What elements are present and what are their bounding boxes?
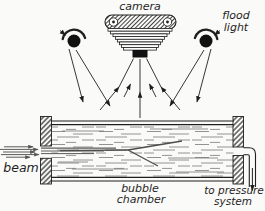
flood-light-right bbox=[195, 30, 220, 48]
reflected-ray-up bbox=[150, 84, 157, 97]
flood-light-left bbox=[60, 30, 85, 48]
beam-arrows bbox=[0, 147, 39, 157]
light-ray-down bbox=[69, 49, 83, 102]
pressure-label-line2: system bbox=[214, 195, 252, 207]
light-ray-down bbox=[76, 50, 110, 106]
diagram-canvas: camera flood l bbox=[0, 0, 265, 211]
end-cap-right-top bbox=[233, 117, 244, 148]
reflected-ray-up bbox=[124, 84, 131, 97]
bubble-chamber-label: bubble chamber bbox=[117, 182, 167, 206]
bubble-chamber-label-line2: chamber bbox=[117, 193, 167, 206]
pressure-system-label: to pressure system bbox=[204, 184, 264, 207]
camera-bellows bbox=[108, 29, 172, 51]
track-main bbox=[60, 150, 128, 151]
camera-view-line bbox=[119, 59, 134, 88]
tube-inner-wall bbox=[244, 155, 250, 187]
bubble-chamber-diagram: camera flood l bbox=[0, 0, 265, 211]
end-cap-left-bottom bbox=[41, 158, 52, 184]
lamp-bulb-right bbox=[200, 35, 213, 48]
reflected-ray-up bbox=[161, 87, 180, 110]
camera-label: camera bbox=[119, 0, 161, 13]
light-ray-down bbox=[197, 49, 211, 102]
light-rays bbox=[69, 49, 211, 118]
film-spool-left-icon bbox=[109, 18, 117, 26]
camera-assembly: camera bbox=[105, 0, 176, 58]
flood-light-label: flood light bbox=[222, 9, 251, 34]
flood-light-label-line2: light bbox=[224, 21, 249, 34]
bubble-chamber-vessel bbox=[41, 117, 244, 185]
camera-view-line bbox=[147, 59, 162, 88]
lamp-bulb-left bbox=[68, 35, 81, 48]
beam-label: beam bbox=[3, 160, 38, 175]
reflected-ray-up bbox=[100, 87, 119, 110]
film-spool-right-icon bbox=[163, 18, 171, 26]
light-ray-down bbox=[170, 50, 204, 106]
end-cap-left-top bbox=[41, 117, 52, 147]
camera-lens bbox=[133, 50, 148, 58]
end-cap-right-bottom bbox=[233, 156, 244, 185]
